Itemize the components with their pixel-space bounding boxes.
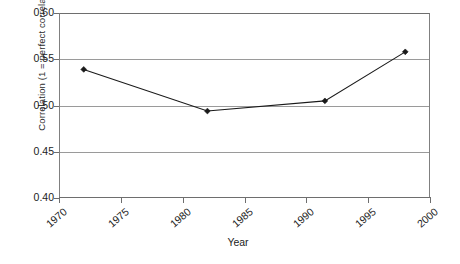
- x-tick-mark: [368, 198, 369, 203]
- data-point-marker: [322, 98, 328, 104]
- data-point-marker: [205, 108, 211, 114]
- data-point-marker: [402, 49, 408, 55]
- y-tick-mark: [54, 59, 59, 60]
- x-tick-mark: [59, 198, 60, 203]
- x-tick-mark: [306, 198, 307, 203]
- data-point-marker: [81, 67, 87, 73]
- y-tick-mark: [54, 152, 59, 153]
- x-tick-mark: [183, 198, 184, 203]
- chart-figure: Correlation (1 = perfect correlation) 0.…: [0, 0, 460, 264]
- x-tick-mark: [121, 198, 122, 203]
- series-line-0: [84, 52, 406, 111]
- x-tick-mark: [430, 198, 431, 203]
- y-tick-mark: [54, 106, 59, 107]
- x-tick-mark: [245, 198, 246, 203]
- y-tick-mark: [54, 13, 59, 14]
- x-axis-title: Year: [0, 236, 460, 248]
- x-axis-title-text: Year: [227, 236, 248, 248]
